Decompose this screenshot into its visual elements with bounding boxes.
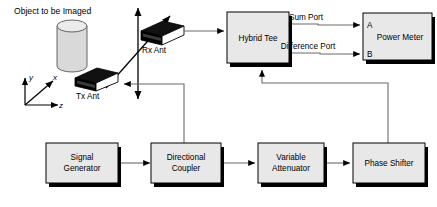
- power-meter-port-a: A: [367, 21, 373, 30]
- difference-port-label: Difference Port: [281, 42, 336, 51]
- diagram-canvas: Hybrid Tee Power Meter A B Signal Genera…: [0, 0, 437, 207]
- y-axis-label: y: [28, 73, 34, 82]
- object-cylinder: [57, 20, 87, 72]
- block-variable-attenuator[interactable]: Variable Attenuator: [258, 143, 327, 187]
- rx-antenna: [141, 21, 184, 45]
- block-power-meter[interactable]: Power Meter A B: [363, 13, 435, 64]
- block-label-power-meter: Power Meter: [377, 33, 424, 42]
- rx-antenna-label: Rx Ant: [142, 46, 167, 55]
- block-label-directional-coupler-line2: Coupler: [172, 164, 201, 173]
- block-label-phase-shifter: Phase Shifter: [364, 159, 413, 168]
- link-phase-shifter-to-hybrid-tee: [262, 70, 388, 143]
- tx-antenna-label: Tx Ant: [76, 92, 100, 101]
- block-directional-coupler[interactable]: Directional Coupler: [151, 143, 224, 187]
- block-label-signal-generator-line2: Generator: [64, 164, 101, 173]
- object-title-label: Object to be Imaged: [14, 6, 92, 16]
- coordinate-axes: [25, 78, 58, 105]
- block-label-variable-attenuator-line2: Attenuator: [272, 164, 310, 173]
- block-hybrid-tee[interactable]: Hybrid Tee: [227, 12, 292, 67]
- block-phase-shifter[interactable]: Phase Shifter: [353, 143, 428, 187]
- tx-antenna: [75, 68, 118, 91]
- block-signal-generator[interactable]: Signal Generator: [46, 143, 121, 187]
- block-label-signal-generator-line1: Signal: [71, 153, 94, 162]
- x-axis-label: x: [52, 73, 58, 82]
- power-meter-port-b: B: [367, 50, 373, 59]
- z-axis-label: z: [58, 101, 63, 110]
- block-label-directional-coupler-line1: Directional: [167, 153, 206, 162]
- link-sum-port: [290, 24, 360, 25]
- block-label-variable-attenuator-line1: Variable: [276, 153, 306, 162]
- block-label-hybrid-tee: Hybrid Tee: [239, 34, 278, 43]
- sum-port-label: Sum Port: [289, 13, 324, 22]
- block-diagram: Hybrid Tee Power Meter A B Signal Genera…: [0, 0, 437, 207]
- link-difference-port: [290, 53, 360, 54]
- link-coupler-to-tx-antenna: [124, 84, 184, 143]
